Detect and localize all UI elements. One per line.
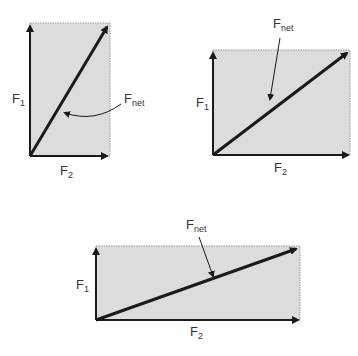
fnet-label: Fnet: [124, 91, 145, 108]
fnet-label: Fnet: [273, 16, 294, 33]
diagram-wider: F1 F2 Fnet: [76, 217, 300, 341]
diagram-wide: F1 F2 Fnet: [196, 16, 350, 177]
f1-label: F1: [12, 91, 25, 108]
f2-label: F2: [60, 163, 73, 180]
f2-label: F2: [274, 160, 287, 177]
f1-label: F1: [76, 277, 89, 294]
vector-addition-figure: F1 F2 Fnet F1 F2 Fnet F1 F2 Fnet: [0, 0, 358, 356]
f1-label: F1: [196, 95, 209, 112]
f2-label: F2: [190, 324, 203, 341]
fnet-label: Fnet: [186, 217, 207, 234]
diagram-tall: F1 F2 Fnet: [12, 23, 145, 180]
